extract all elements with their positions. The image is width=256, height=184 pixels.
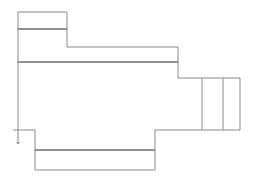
insertion-marker-icon [13, 130, 20, 144]
diagram-outline [18, 12, 240, 170]
floor-plan-diagram [0, 0, 256, 184]
